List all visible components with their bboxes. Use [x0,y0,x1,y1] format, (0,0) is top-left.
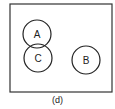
set-a-label: A [34,29,41,40]
universe-frame [10,4,112,92]
figure-caption: (d) [0,95,115,105]
set-b-label: B [83,55,90,66]
set-c-label: C [34,53,41,64]
venn-diagram: A C B [0,0,115,109]
